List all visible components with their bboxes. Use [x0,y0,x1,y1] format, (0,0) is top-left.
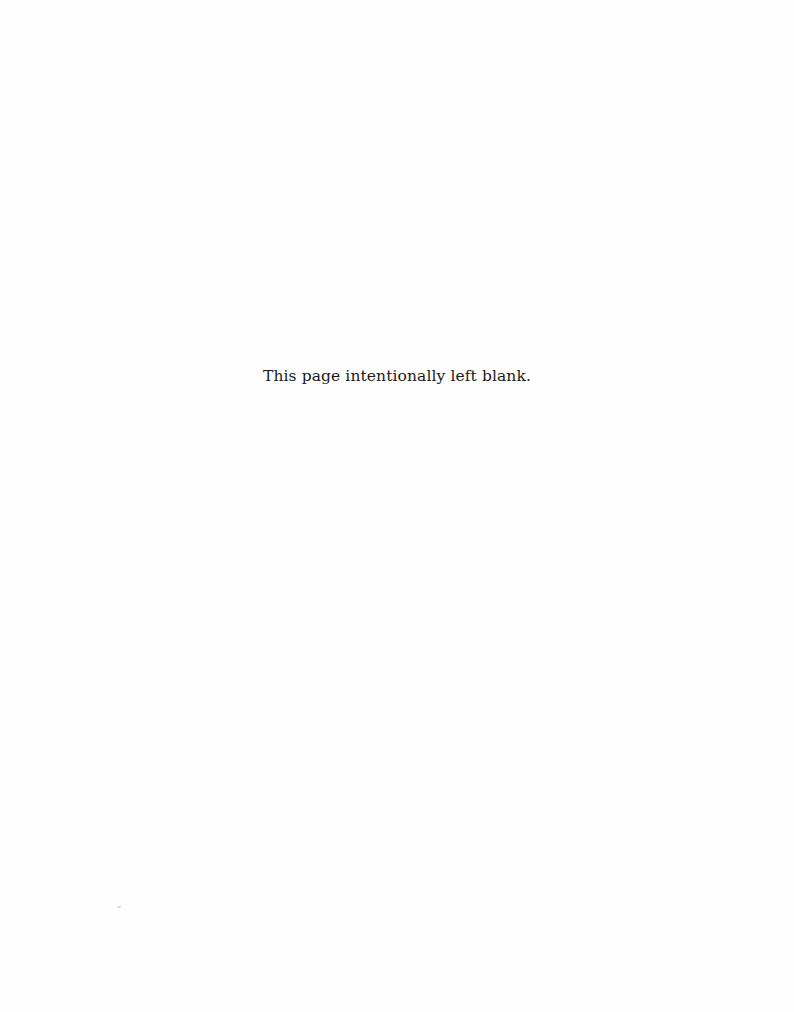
document-page: This page intentionally left blank. [0,0,794,1012]
scan-artifact [117,905,121,909]
blank-page-notice: This page intentionally left blank. [0,367,794,385]
